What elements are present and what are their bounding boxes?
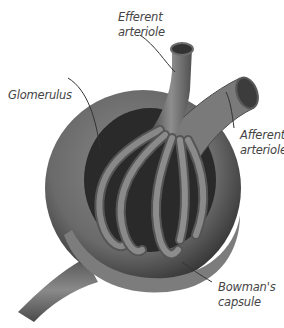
label-efferent-line2: arteriole [118, 25, 165, 40]
label-afferent-arteriole: Afferent arteriole [240, 128, 284, 158]
label-afferent-line1: Afferent [240, 128, 284, 143]
renal-corpuscle-illustration [0, 0, 284, 328]
label-efferent-line1: Efferent [118, 10, 165, 25]
label-glomerulus: Glomerulus [8, 88, 72, 103]
label-afferent-line2: arteriole [240, 143, 284, 158]
label-bowmans-line2: capsule [218, 295, 275, 310]
label-glomerulus-line1: Glomerulus [8, 88, 72, 103]
label-bowmans-capsule: Bowman's capsule [218, 280, 275, 310]
label-bowmans-line1: Bowman's [218, 280, 275, 295]
label-efferent-arteriole: Efferent arteriole [118, 10, 165, 40]
efferent-leader [140, 35, 175, 72]
